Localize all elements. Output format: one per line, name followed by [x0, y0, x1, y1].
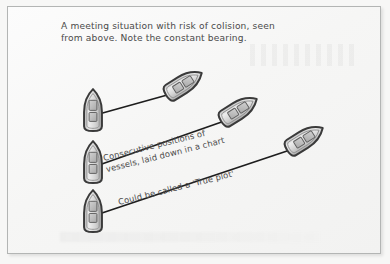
figure-root: A meeting situation with risk of colisio… — [0, 0, 390, 264]
vessel-own-ship-2 — [84, 141, 102, 183]
vessel-target-ship-3 — [282, 120, 327, 157]
note-true-plot: Could be called a 'True plot' — [117, 168, 235, 207]
diagram-canvas: Consecutive positions of vessels, laid d… — [0, 0, 390, 264]
vessel-own-ship-1 — [84, 89, 102, 131]
vessel-own-ship-3 — [84, 190, 102, 232]
vessel-target-ship-2 — [216, 91, 261, 128]
vessel-target-ship-1 — [161, 65, 206, 102]
note-true-plot-line-1: Could be called a 'True plot' — [117, 168, 235, 207]
note-consecutive-positions: Consecutive positions of vessels, laid d… — [102, 124, 226, 175]
